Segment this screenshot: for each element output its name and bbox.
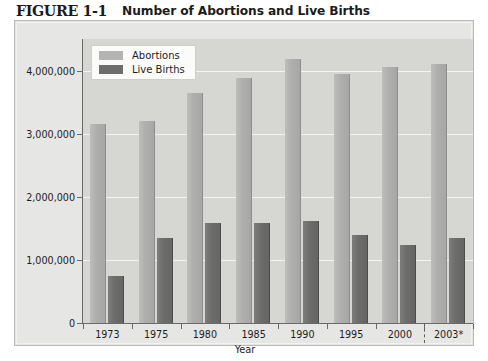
figure-title: Number of Abortions and Live Births [122, 4, 370, 18]
x-axis-tick-label-1990: 1990 [290, 329, 314, 340]
x-axis-tick [278, 324, 279, 329]
x-axis-tick-label-1980: 1980 [193, 329, 217, 340]
x-axis-tick [229, 324, 230, 329]
x-axis-tick [327, 324, 328, 329]
y-axis-tick [77, 134, 83, 135]
x-axis-tick [83, 324, 84, 329]
bar-abortions-1990 [285, 59, 301, 323]
bar-abortions-2003 [431, 64, 447, 323]
figure-number: FIGURE 1-1 [16, 3, 107, 18]
legend-item-live-births: Live Births [99, 64, 185, 75]
x-axis-tick [376, 324, 377, 329]
bar-abortions-2000 [382, 67, 398, 323]
legend-label: Abortions [132, 50, 180, 61]
x-axis-tick-label-1995: 1995 [339, 329, 363, 340]
y-axis-tick-label: 2,000,000 [17, 191, 75, 202]
plot-area [83, 39, 473, 323]
bar-abortions-1980 [187, 93, 203, 323]
y-axis-tick-label: 4,000,000 [17, 65, 75, 76]
legend-label: Live Births [132, 64, 185, 75]
bar-live-births-1980 [205, 223, 221, 323]
x-axis-tick-label-1985: 1985 [241, 329, 265, 340]
bar-live-births-1995 [352, 235, 368, 323]
bar-live-births-1985 [254, 223, 270, 323]
y-axis-tick-label: 3,000,000 [17, 128, 75, 139]
bar-abortions-1995 [334, 74, 350, 323]
bar-live-births-2003 [449, 238, 465, 323]
x-axis-tick-label-2000: 2000 [388, 329, 412, 340]
chart-legend: AbortionsLive Births [91, 45, 196, 80]
legend-item-abortions: Abortions [99, 50, 185, 61]
bar-abortions-1975 [139, 121, 155, 323]
bar-abortions-1985 [236, 78, 252, 323]
y-axis-labels: 01,000,0002,000,0003,000,0004,000,000 [15, 21, 75, 347]
x-axis-tick-label-1975: 1975 [144, 329, 168, 340]
x-axis-title: Year [15, 344, 475, 355]
legend-swatch-icon [99, 51, 123, 60]
y-axis-line [82, 39, 83, 324]
chart-panel: 01,000,0002,000,0003,000,0004,000,000 Ab… [14, 20, 474, 346]
y-axis-tick [77, 71, 83, 72]
x-axis-tick-label-2003: 2003* [434, 329, 463, 340]
bar-live-births-1990 [303, 221, 319, 323]
bar-live-births-1975 [157, 238, 173, 323]
y-axis-tick [77, 260, 83, 261]
x-axis-tick [132, 324, 133, 329]
bar-abortions-1973 [90, 124, 106, 323]
x-axis-tick [181, 324, 182, 329]
projection-divider [424, 323, 425, 343]
legend-swatch-icon [99, 65, 123, 74]
bar-live-births-2000 [400, 245, 416, 323]
y-axis-tick-label: 0 [17, 318, 75, 329]
x-axis-tick-label-1973: 1973 [95, 329, 119, 340]
figure-header: FIGURE 1-1 Number of Abortions and Live … [0, 0, 488, 18]
x-axis-tick [473, 324, 474, 329]
y-axis-tick-label: 1,000,000 [17, 254, 75, 265]
y-axis-tick [77, 197, 83, 198]
bar-live-births-1973 [108, 276, 124, 323]
